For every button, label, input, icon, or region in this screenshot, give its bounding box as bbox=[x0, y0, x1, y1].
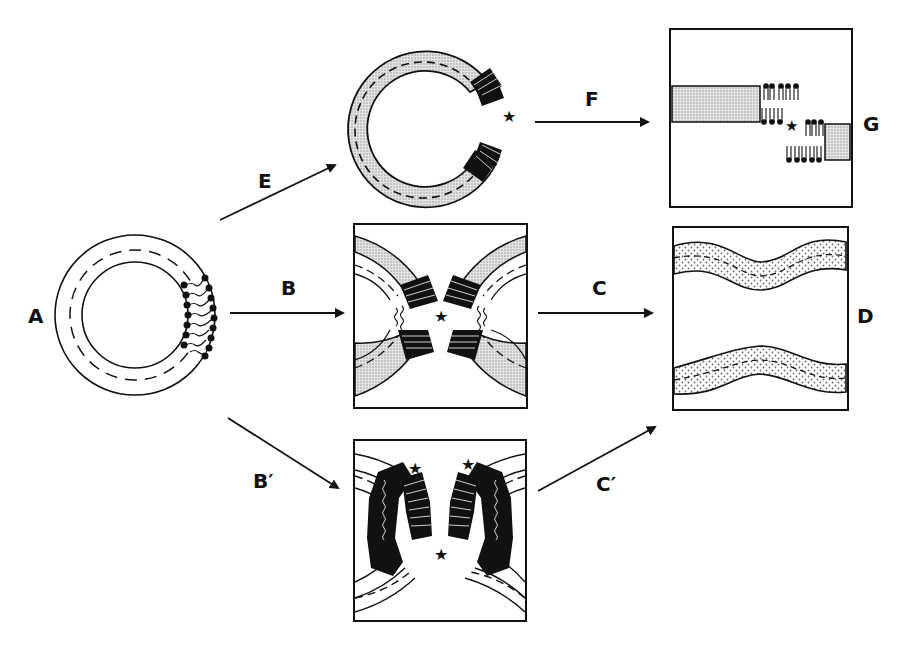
arrow-b-prime bbox=[228, 418, 338, 488]
stage-e-open-ring: ★ bbox=[348, 51, 516, 207]
label-a: A bbox=[28, 304, 44, 328]
label-g: G bbox=[863, 112, 879, 136]
star-icon: ★ bbox=[502, 107, 516, 126]
stage-d-fused-membranes bbox=[673, 227, 848, 410]
label-c: C bbox=[592, 276, 607, 300]
star-icon: ★ bbox=[434, 307, 448, 326]
arrow-e bbox=[220, 165, 335, 220]
star-icon: ★ bbox=[408, 459, 422, 478]
label-b-prime: B′ bbox=[253, 469, 274, 493]
stage-b-prime-hemifusion: ★ ★ ★ bbox=[354, 440, 526, 621]
star-icon: ★ bbox=[434, 545, 448, 564]
stage-a-vesicle bbox=[55, 235, 218, 395]
label-b: B bbox=[281, 276, 296, 300]
star-icon: ★ bbox=[461, 455, 475, 474]
star-icon: ★ bbox=[785, 117, 798, 135]
label-e: E bbox=[258, 169, 272, 193]
label-c-prime: C′ bbox=[596, 472, 616, 496]
lipid-patch bbox=[181, 275, 218, 360]
label-f: F bbox=[585, 87, 599, 111]
stage-g-planar-bilayer: ★ bbox=[670, 29, 852, 207]
membrane-fusion-diagram: A E ★ F bbox=[0, 0, 914, 654]
label-d: D bbox=[857, 304, 874, 328]
stage-b-apposed-membranes: ★ bbox=[354, 224, 527, 408]
